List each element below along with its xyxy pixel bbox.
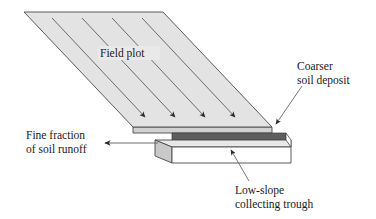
field-plot-trough-diagram: Field plot Coarser soil dep [0,0,376,219]
field-plot-surface [24,12,272,127]
diagram-canvas: Field plot Coarser soil dep [0,0,376,219]
low-slope-trough-label-line2: collecting trough [235,198,313,211]
field-plot-label: Field plot [100,47,145,60]
trough-top-surface [155,140,291,147]
field-plot-group: Field plot [24,12,272,133]
coarser-soil-deposit [172,133,286,140]
fine-fraction-label-line1: Fine fraction [26,129,85,141]
low-slope-trough-label-line1: Low-slope [235,184,284,197]
trough-front-face [172,147,291,163]
coarser-soil-deposit-label-line2: soil deposit [297,74,351,87]
field-plot-slab-edge [133,127,272,133]
coarser-soil-deposit-leader [276,86,302,124]
collecting-trough-group [155,133,291,163]
coarser-soil-deposit-label-line1: Coarser [297,60,333,72]
fine-fraction-label-line2: of soil runoff [26,143,87,155]
